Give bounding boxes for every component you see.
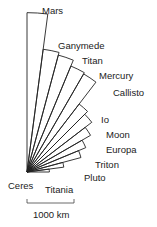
wedge-mercury bbox=[27, 66, 84, 172]
label-callisto: Callisto bbox=[113, 87, 144, 98]
label-io: Io bbox=[101, 114, 109, 125]
scale-bar-label: 1000 km bbox=[33, 209, 70, 220]
label-pluto: Pluto bbox=[84, 172, 106, 183]
size-wedges bbox=[27, 13, 96, 172]
moon-size-diagram: MarsGanymedeTitanMercuryCallistoIoMoonEu… bbox=[0, 0, 157, 227]
label-mercury: Mercury bbox=[99, 70, 134, 81]
label-triton: Triton bbox=[95, 159, 119, 170]
label-ganymede: Ganymede bbox=[58, 40, 104, 51]
scale-bar: 1000 km bbox=[27, 199, 74, 220]
wedge-titania bbox=[27, 162, 64, 172]
label-ceres: Ceres bbox=[8, 180, 34, 191]
label-titania: Titania bbox=[45, 184, 74, 195]
label-moon: Moon bbox=[106, 129, 130, 140]
label-mars: Mars bbox=[42, 5, 63, 16]
label-titan: Titan bbox=[82, 55, 103, 66]
label-europa: Europa bbox=[106, 144, 137, 155]
